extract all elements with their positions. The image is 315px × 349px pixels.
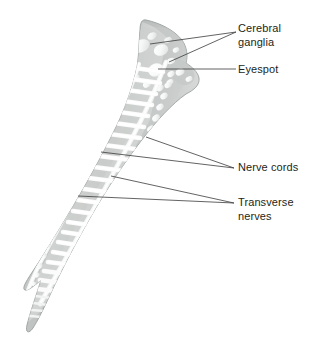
label-transverse-nerves: Transverse nerves xyxy=(238,196,294,223)
label-cerebral-ganglia: Cerebral ganglia xyxy=(238,22,281,49)
leader-transverse-nerves-1 xyxy=(111,176,234,203)
figure-page: Cerebral ganglia Eyespot Nerve cords Tra… xyxy=(0,0,315,349)
label-eyespot: Eyespot xyxy=(238,63,278,77)
body-left-highlight xyxy=(28,22,167,322)
transverse-nerves xyxy=(30,68,163,317)
flatworm-nervous-system-illustration xyxy=(0,0,315,349)
leader-nerve-cords-1 xyxy=(146,137,234,168)
label-nerve-cords: Nerve cords xyxy=(238,161,298,175)
